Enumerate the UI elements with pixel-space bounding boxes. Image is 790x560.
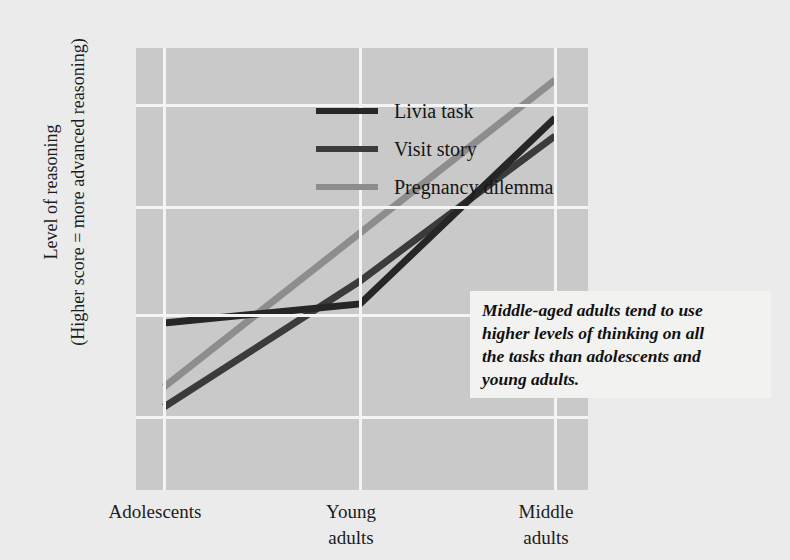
x-tick-label-young-adults-line1: Young xyxy=(256,499,446,525)
annotation-line-3: the tasks than adolescents and xyxy=(482,345,761,368)
legend-item-livia-task: Livia task xyxy=(316,92,616,130)
plot-area: Livia task Visit story Pregnancy dilemma xyxy=(136,48,588,490)
y-axis-title: Level of reasoning (Higher score = more … xyxy=(38,27,92,357)
x-tick-label-middle-adults-line2: adults xyxy=(451,525,641,551)
legend-item-pregnancy-dilemma: Pregnancy dilemma xyxy=(316,168,616,206)
legend-item-visit-story: Visit story xyxy=(316,130,616,168)
annotation-line-2: higher levels of thinking on all xyxy=(482,322,761,345)
legend-label-visit-story: Visit story xyxy=(394,138,477,161)
legend-swatch-pregnancy-dilemma xyxy=(316,184,378,190)
legend-swatch-visit-story xyxy=(316,146,378,152)
x-tick-label-young-adults-line2: adults xyxy=(256,525,446,551)
y-axis-title-line1: Level of reasoning xyxy=(41,125,61,260)
figure: Level of reasoning (Higher score = more … xyxy=(0,0,790,560)
annotation-callout: Middle-aged adults tend to use higher le… xyxy=(470,291,771,398)
gridline-y-3.5 xyxy=(136,206,588,209)
x-tick-label-young-adults: Young adults xyxy=(256,499,446,550)
legend-label-livia-task: Livia task xyxy=(394,100,473,123)
gridline-y-2.5 xyxy=(136,416,588,419)
legend-swatch-livia-task xyxy=(316,108,378,114)
x-tick-label-middle-adults-line1: Middle xyxy=(451,499,641,525)
legend: Livia task Visit story Pregnancy dilemma xyxy=(316,92,616,206)
annotation-line-4: young adults. xyxy=(482,368,761,391)
x-tick-label-adolescents-line1: Adolescents xyxy=(60,499,250,525)
gridline-x-adolescents xyxy=(163,48,166,490)
figure-inner: Level of reasoning (Higher score = more … xyxy=(8,10,782,550)
y-axis-title-line2: (Higher score = more advanced reasoning) xyxy=(65,27,92,357)
legend-label-pregnancy-dilemma: Pregnancy dilemma xyxy=(394,176,553,199)
x-tick-label-middle-adults: Middle adults xyxy=(451,499,641,550)
x-tick-label-adolescents: Adolescents xyxy=(60,499,250,525)
annotation-line-1: Middle-aged adults tend to use xyxy=(482,299,761,322)
